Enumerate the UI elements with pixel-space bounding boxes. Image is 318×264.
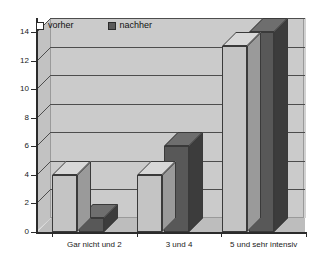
legend-label-vorher: vorher	[48, 21, 74, 30]
legend-swatch-dark-square	[108, 22, 116, 30]
bar-vorher-3	[222, 46, 247, 232]
y-axis-tick-label: 0	[3, 228, 29, 236]
bar-front-face	[52, 175, 77, 232]
x-axis-tick-mark	[137, 232, 138, 237]
bar-front-face	[137, 175, 162, 232]
y-axis-tick-mark	[31, 175, 36, 176]
chart-legend: vorher nachher	[36, 21, 152, 30]
bar-side-face	[247, 32, 261, 232]
y-axis-tick-mark	[31, 146, 36, 147]
y-axis-line	[36, 18, 38, 233]
x-axis-tick-mark	[221, 232, 222, 237]
y-axis-tick-label: 8	[3, 114, 29, 122]
y-axis-tick-label: 6	[3, 142, 29, 150]
y-axis-tick-mark	[31, 89, 36, 90]
x-axis-tick-mark	[306, 232, 307, 237]
plot-side-wall	[36, 18, 51, 232]
plot-area: 14121086420 Gar nicht und 23 und 45 und …	[0, 0, 318, 264]
bar-front-face	[222, 46, 247, 232]
y-axis-tick-label: 14	[3, 28, 29, 36]
y-axis-tick-label: 2	[3, 199, 29, 207]
plot-right-edge	[303, 18, 306, 218]
bar-side-face	[274, 18, 288, 232]
y-axis-tick-mark	[31, 232, 36, 233]
legend-label-nachher: nachher	[120, 21, 153, 30]
bar-chart: 14121086420 Gar nicht und 23 und 45 und …	[0, 0, 318, 264]
y-axis-tick-mark	[31, 32, 36, 33]
x-axis-tick-mark	[52, 232, 53, 237]
bar-vorher-2	[137, 175, 162, 232]
legend-entry-nachher: nachher	[108, 21, 153, 30]
y-axis-tick-label: 4	[3, 171, 29, 179]
y-axis-tick-mark	[31, 118, 36, 119]
y-axis-tick-mark	[31, 61, 36, 62]
x-axis-category-label: 5 und sehr intensiv	[209, 241, 318, 249]
legend-entry-vorher: vorher	[36, 21, 74, 30]
bar-vorher-1	[52, 175, 77, 232]
y-axis-tick-label: 10	[3, 85, 29, 93]
bar-side-face	[189, 132, 203, 232]
y-axis-tick-mark	[31, 203, 36, 204]
y-axis-tick-label: 12	[3, 57, 29, 65]
legend-swatch-light-square	[36, 22, 44, 30]
